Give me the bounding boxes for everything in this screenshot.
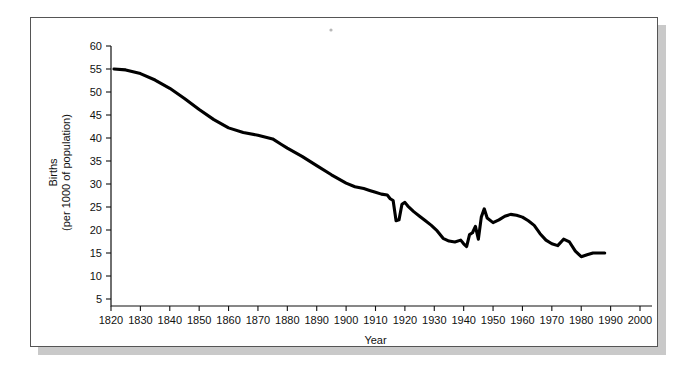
page-speck-artifact xyxy=(329,28,332,31)
y-tick-label: 30 xyxy=(90,178,102,190)
y-tick-label: 5 xyxy=(96,293,102,305)
x-axis-title: Year xyxy=(364,334,387,346)
y-axis-title-line2: (per 1000 of population) xyxy=(60,114,72,231)
screenshot-page: 51015202530354045505560 1820183018401850… xyxy=(0,0,681,374)
y-tick-label: 60 xyxy=(90,40,102,52)
x-tick-label: 1830 xyxy=(128,314,152,326)
y-tick-label: 20 xyxy=(90,224,102,236)
x-axis-ticks: 1820183018401850186018701880189019001910… xyxy=(99,306,652,326)
y-tick-label: 10 xyxy=(90,270,102,282)
x-tick-label: 1910 xyxy=(363,314,387,326)
x-tick-label: 1930 xyxy=(422,314,446,326)
x-tick-label: 1820 xyxy=(99,314,123,326)
x-tick-label: 1940 xyxy=(451,314,475,326)
y-tick-label: 15 xyxy=(90,247,102,259)
x-tick-label: 2000 xyxy=(628,314,652,326)
x-tick-label: 1900 xyxy=(334,314,358,326)
x-tick-label: 1860 xyxy=(216,314,240,326)
birth-rate-series-line xyxy=(114,69,605,257)
x-tick-label: 1960 xyxy=(510,314,534,326)
x-tick-label: 1920 xyxy=(393,314,417,326)
x-tick-label: 1840 xyxy=(158,314,182,326)
x-tick-label: 1890 xyxy=(304,314,328,326)
y-tick-label: 35 xyxy=(90,155,102,167)
x-tick-label: 1980 xyxy=(569,314,593,326)
x-tick-label: 1970 xyxy=(540,314,564,326)
x-tick-label: 1950 xyxy=(481,314,505,326)
chart-axes xyxy=(111,46,652,306)
y-tick-label: 25 xyxy=(90,201,102,213)
x-tick-label: 1850 xyxy=(187,314,211,326)
axis-lines xyxy=(111,46,652,306)
y-tick-label: 55 xyxy=(90,63,102,75)
x-tick-label: 1870 xyxy=(246,314,270,326)
y-axis-ticks: 51015202530354045505560 xyxy=(90,40,111,305)
x-tick-label: 1990 xyxy=(598,314,622,326)
x-axis-title: Year xyxy=(364,334,387,346)
y-tick-label: 45 xyxy=(90,109,102,121)
birth-rate-line-chart: 51015202530354045505560 1820183018401850… xyxy=(31,18,659,348)
y-axis-title: Births(per 1000 of population) xyxy=(47,114,72,231)
y-axis-title-line1: Births xyxy=(47,158,59,187)
y-tick-label: 40 xyxy=(90,132,102,144)
x-tick-label: 1880 xyxy=(275,314,299,326)
figure-frame: 51015202530354045505560 1820183018401850… xyxy=(30,17,658,347)
y-tick-label: 50 xyxy=(90,86,102,98)
